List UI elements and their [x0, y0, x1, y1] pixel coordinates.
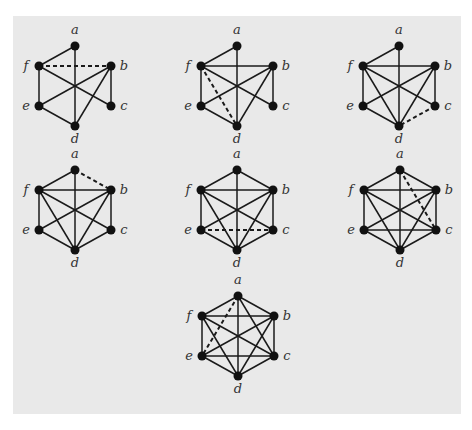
vertex-label-d: d: [233, 255, 241, 270]
vertex-label-a: a: [71, 22, 79, 37]
graph-g3: abcdef: [346, 22, 452, 146]
vertex-label-a: a: [71, 146, 79, 161]
vertex-d: [234, 372, 243, 381]
vertex-d: [233, 122, 242, 131]
vertex-label-d: d: [233, 131, 241, 146]
edge-bd: [237, 190, 273, 250]
vertex-label-d: d: [234, 381, 242, 396]
vertex-label-b: b: [444, 58, 452, 73]
vertex-e: [360, 226, 369, 235]
vertex-b: [269, 62, 278, 71]
vertex-label-c: c: [445, 222, 453, 237]
vertex-d: [71, 122, 80, 131]
edge-af: [363, 46, 399, 66]
vertex-b: [269, 186, 278, 195]
vertex-b: [107, 62, 116, 71]
vertex-label-b: b: [120, 182, 128, 197]
vertex-d: [71, 246, 80, 255]
edge-af: [39, 170, 75, 190]
graph-g5: abcdef: [184, 146, 290, 270]
vertex-b: [270, 312, 279, 321]
vertex-label-a: a: [234, 272, 242, 287]
graph-g2: abcdef: [184, 22, 290, 146]
vertex-f: [197, 186, 206, 195]
vertex-f: [359, 62, 368, 71]
vertex-label-f: f: [185, 58, 193, 73]
vertex-label-b: b: [445, 182, 453, 197]
vertex-label-f: f: [185, 182, 193, 197]
vertex-e: [35, 226, 44, 235]
vertex-a: [234, 292, 243, 301]
vertex-label-e: e: [347, 222, 355, 237]
vertex-a: [71, 166, 80, 175]
vertex-a: [233, 42, 242, 51]
vertex-e: [197, 102, 206, 111]
vertex-b: [107, 186, 116, 195]
graph-g6: abcdef: [347, 146, 453, 270]
vertex-label-e: e: [22, 98, 30, 113]
graph-g1: abcdef: [22, 22, 128, 146]
vertex-f: [360, 186, 369, 195]
vertex-label-d: d: [395, 131, 403, 146]
vertex-label-c: c: [120, 222, 128, 237]
edge-bd: [237, 66, 273, 126]
edge-ab: [237, 170, 273, 190]
vertex-c: [269, 102, 278, 111]
vertex-f: [198, 312, 207, 321]
graph-g7: abcdef: [185, 272, 291, 396]
vertex-label-f: f: [23, 58, 31, 73]
vertex-label-f: f: [347, 58, 355, 73]
vertex-a: [71, 42, 80, 51]
vertex-label-d: d: [71, 255, 79, 270]
vertex-label-e: e: [185, 348, 193, 363]
graph-g4: abcdef: [22, 146, 128, 270]
vertex-label-e: e: [22, 222, 30, 237]
vertex-f: [35, 186, 44, 195]
vertex-c: [107, 102, 116, 111]
graph-sequence-diagram: abcdefabcdefabcdefabcdefabcdefabcdefabcd…: [0, 0, 472, 430]
vertex-label-e: e: [184, 222, 192, 237]
vertex-b: [432, 186, 441, 195]
vertex-label-c: c: [283, 348, 291, 363]
vertex-c: [431, 102, 440, 111]
vertex-c: [107, 226, 116, 235]
edge-bd: [75, 190, 111, 250]
edge-af: [201, 170, 237, 190]
vertex-e: [197, 226, 206, 235]
vertex-label-a: a: [396, 146, 404, 161]
vertex-label-e: e: [184, 98, 192, 113]
vertex-d: [233, 246, 242, 255]
vertex-label-b: b: [283, 308, 291, 323]
vertex-e: [359, 102, 368, 111]
vertex-a: [396, 166, 405, 175]
vertex-label-b: b: [120, 58, 128, 73]
vertex-d: [395, 122, 404, 131]
vertex-label-b: b: [282, 182, 290, 197]
vertex-label-f: f: [348, 182, 356, 197]
edge-ed: [39, 106, 75, 126]
vertex-label-c: c: [120, 98, 128, 113]
vertex-label-d: d: [71, 131, 79, 146]
vertex-e: [198, 352, 207, 361]
vertex-d: [396, 246, 405, 255]
vertex-a: [233, 166, 242, 175]
vertex-c: [270, 352, 279, 361]
edge-ab: [400, 170, 436, 190]
vertex-label-f: f: [186, 308, 194, 323]
vertex-label-b: b: [282, 58, 290, 73]
edge-af: [202, 296, 238, 316]
vertex-c: [432, 226, 441, 235]
vertex-label-c: c: [444, 98, 452, 113]
vertex-label-a: a: [233, 146, 241, 161]
vertex-label-c: c: [282, 222, 290, 237]
vertex-label-e: e: [346, 98, 354, 113]
vertex-f: [197, 62, 206, 71]
dashed-edge-ab: [75, 170, 111, 190]
edge-af: [201, 46, 237, 66]
vertex-label-a: a: [395, 22, 403, 37]
vertex-c: [269, 226, 278, 235]
edge-bd: [75, 66, 111, 126]
vertex-label-a: a: [233, 22, 241, 37]
edge-af: [364, 170, 400, 190]
edge-af: [39, 46, 75, 66]
